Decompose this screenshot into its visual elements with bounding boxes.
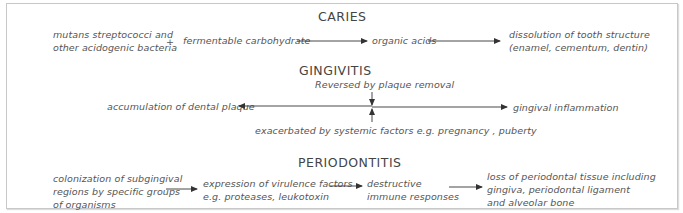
arrows-layer — [0, 0, 683, 213]
